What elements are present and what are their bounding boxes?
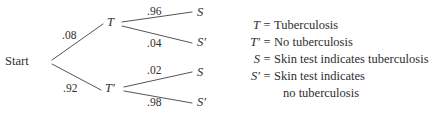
leaf-s-prime-upper: S′ xyxy=(197,36,206,49)
legend-definition-s-prime-continued: no tuberculosis xyxy=(283,85,359,102)
probability-tree-figure: Start T T′ S S′ S S′ .08 .92 .96 .04 .02… xyxy=(0,0,443,118)
probability-t-to-s-prime: .04 xyxy=(147,38,161,50)
leaf-s-upper: S xyxy=(197,6,203,19)
legend-symbol-t-prime: T′ xyxy=(238,34,260,51)
branch-start-to-t xyxy=(52,24,103,60)
legend-definition-s: Skin test indicates tuberculosis xyxy=(274,51,443,68)
probability-t-to-s: .96 xyxy=(147,6,161,18)
legend-row-s: S = Skin test indicates tuberculosis xyxy=(238,51,443,68)
legend-symbol-t: T xyxy=(238,17,260,34)
legend-symbol-s-prime: S′ xyxy=(238,68,260,85)
legend: T = Tuberculosis T′ = No tuberculosis S … xyxy=(238,17,443,102)
legend-row-t: T = Tuberculosis xyxy=(238,17,443,34)
node-t: T xyxy=(107,16,114,29)
leaf-s-prime-lower: S′ xyxy=(197,96,206,109)
legend-definition-s-prime: Skin test indicates xyxy=(274,68,443,85)
node-start: Start xyxy=(5,55,29,68)
legend-equals-t: = xyxy=(260,17,274,34)
probability-t-prime-to-s-prime: .98 xyxy=(147,97,161,109)
probability-start-to-t-prime: .92 xyxy=(63,83,77,95)
legend-equals-t-prime: = xyxy=(260,34,274,51)
node-t-prime: T′ xyxy=(105,82,115,95)
legend-row-s-prime: S′ = Skin test indicates xyxy=(238,68,443,85)
legend-definition-t: Tuberculosis xyxy=(274,17,443,34)
legend-definition-t-prime: No tuberculosis xyxy=(274,34,443,51)
probability-start-to-t: .08 xyxy=(62,30,76,42)
legend-continuation-spacer xyxy=(238,85,283,102)
leaf-s-lower: S xyxy=(197,66,203,79)
probability-t-prime-to-s: .02 xyxy=(147,65,161,77)
legend-equals-s: = xyxy=(260,51,274,68)
legend-row-s-prime-continuation: no tuberculosis xyxy=(238,85,443,102)
legend-equals-s-prime: = xyxy=(260,68,274,85)
legend-row-t-prime: T′ = No tuberculosis xyxy=(238,34,443,51)
legend-symbol-s: S xyxy=(238,51,260,68)
